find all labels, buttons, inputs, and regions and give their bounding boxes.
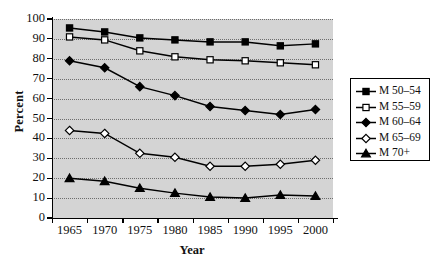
data-point — [65, 57, 73, 65]
data-point — [100, 64, 108, 72]
legend-item-3[interactable]: M 65–69 — [351, 130, 429, 146]
data-point — [206, 162, 214, 170]
legend-marker-icon — [355, 146, 377, 159]
series-1 — [66, 34, 318, 68]
data-point — [312, 41, 318, 47]
legend-marker-icon — [355, 84, 377, 97]
legend-item-4[interactable]: M 70+ — [351, 145, 429, 161]
data-point — [277, 43, 283, 49]
chart-legend: M 50–54M 55–59M 60–64M 65–69M 70+ — [350, 78, 430, 161]
data-point — [172, 37, 178, 43]
legend-label: M 70+ — [379, 147, 410, 159]
legend-label: M 65–69 — [379, 132, 421, 144]
data-point — [137, 35, 143, 41]
data-point — [66, 34, 72, 40]
data-point — [241, 162, 249, 170]
legend-marker-icon — [355, 115, 377, 128]
legend-marker-icon — [355, 131, 377, 144]
data-point — [102, 37, 108, 43]
data-point — [312, 62, 318, 68]
series-3 — [65, 126, 319, 170]
chart-figure: 0102030405060708090100 19651970197519801… — [0, 0, 438, 267]
data-point — [171, 153, 179, 161]
data-point — [136, 149, 144, 157]
data-point — [311, 156, 319, 164]
data-point — [137, 48, 143, 54]
data-point — [100, 129, 108, 137]
legend-marker-icon — [355, 100, 377, 113]
data-point — [276, 110, 284, 118]
series-4 — [65, 174, 320, 201]
data-point — [276, 160, 284, 168]
legend-label: M 55–59 — [379, 101, 421, 113]
data-point — [136, 82, 144, 90]
data-point — [65, 126, 73, 134]
data-point — [311, 105, 319, 113]
data-point — [242, 39, 248, 45]
data-point — [277, 60, 283, 66]
legend-item-1[interactable]: M 55–59 — [351, 99, 429, 115]
data-point — [242, 58, 248, 64]
data-point — [66, 25, 72, 31]
legend-label: M 50–54 — [379, 85, 421, 97]
data-point — [207, 57, 213, 63]
legend-label: M 60–64 — [379, 116, 421, 128]
data-point — [241, 106, 249, 114]
data-point — [172, 54, 178, 60]
data-point — [207, 39, 213, 45]
data-point — [171, 91, 179, 99]
legend-item-2[interactable]: M 60–64 — [351, 114, 429, 130]
data-point — [102, 29, 108, 35]
legend-item-0[interactable]: M 50–54 — [351, 83, 429, 99]
data-point — [206, 102, 214, 110]
